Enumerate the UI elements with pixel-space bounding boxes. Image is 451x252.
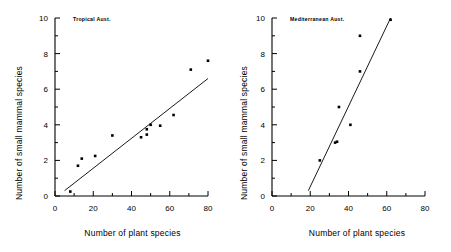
x-axis-title-mediterranean: Number of plant species xyxy=(277,228,437,238)
y-axis-title-mediterranean: Number of small mammal species xyxy=(239,66,249,200)
regression-line xyxy=(65,79,208,191)
data-point xyxy=(69,190,72,193)
x-tick-label: 0 xyxy=(53,204,58,213)
y-tick-label: 8 xyxy=(261,50,266,59)
x-tick-label: 60 xyxy=(165,204,174,213)
y-tick-label: 4 xyxy=(261,121,266,130)
panel-mediterranean: 0246810020406080 Number of small mammal … xyxy=(225,0,451,252)
regression-line xyxy=(308,18,390,191)
data-point xyxy=(149,124,152,127)
x-tick-label: 20 xyxy=(89,204,98,213)
plot-area-mediterranean: 0246810020406080 xyxy=(225,0,451,252)
data-point xyxy=(349,124,352,127)
data-point xyxy=(77,164,80,167)
y-tick-label: 0 xyxy=(44,192,49,201)
x-tick-label: 0 xyxy=(270,204,275,213)
y-tick-label: 2 xyxy=(261,156,266,165)
y-tick-label: 6 xyxy=(261,85,266,94)
data-point xyxy=(111,134,114,137)
data-point xyxy=(359,35,362,38)
data-point xyxy=(338,106,341,109)
panel-label-mediterranean: Mediterranean Aust. xyxy=(290,16,344,22)
data-point xyxy=(159,124,162,127)
data-point xyxy=(140,136,143,139)
y-tick-label: 0 xyxy=(261,192,266,201)
y-tick-label: 10 xyxy=(256,14,265,23)
y-axis-title-tropical: Number of small mammal species xyxy=(14,66,24,200)
data-point xyxy=(359,70,362,73)
x-tick-label: 80 xyxy=(421,204,430,213)
x-tick-label: 80 xyxy=(204,204,213,213)
data-point xyxy=(189,68,192,71)
y-tick-label: 10 xyxy=(39,14,48,23)
y-tick-label: 8 xyxy=(44,50,49,59)
x-tick-label: 60 xyxy=(382,204,391,213)
plot-area-tropical: 0246810020406080 xyxy=(0,0,225,252)
figure-two-panel-scatter: 0246810020406080 Number of small mammal … xyxy=(0,0,451,252)
data-point xyxy=(319,159,322,162)
data-point xyxy=(146,133,149,136)
data-point xyxy=(94,155,97,158)
x-axis-title-tropical: Number of plant species xyxy=(55,228,210,238)
data-point xyxy=(336,140,339,143)
y-tick-label: 2 xyxy=(44,156,49,165)
data-point xyxy=(207,59,210,62)
y-tick-label: 4 xyxy=(44,121,49,130)
data-point xyxy=(146,128,149,131)
data-point xyxy=(389,18,392,21)
data-point xyxy=(80,157,83,160)
x-tick-label: 40 xyxy=(344,204,353,213)
x-tick-label: 40 xyxy=(127,204,136,213)
y-tick-label: 6 xyxy=(44,85,49,94)
panel-tropical: 0246810020406080 Number of small mammal … xyxy=(0,0,225,252)
x-tick-label: 20 xyxy=(306,204,315,213)
data-point xyxy=(172,114,175,117)
panel-label-tropical: Tropical Aust. xyxy=(73,16,111,22)
